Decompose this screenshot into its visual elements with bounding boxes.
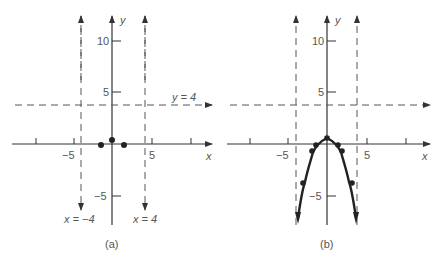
data-point bbox=[339, 148, 345, 154]
data-point bbox=[300, 180, 306, 186]
x-axis-label: x bbox=[421, 150, 428, 162]
data-point bbox=[324, 135, 330, 141]
y-axis-label: y bbox=[119, 14, 127, 26]
horizontal-asymptote-label: y = 4 bbox=[171, 91, 196, 103]
y-tick-10: 10 bbox=[312, 35, 324, 47]
panel-a: y x 10 5 −5 −5 5 y = 4 x = −4 x = 4 (a) bbox=[12, 14, 212, 250]
y-tick-10: 10 bbox=[97, 35, 109, 47]
y-tick-5: 5 bbox=[318, 86, 324, 98]
data-point bbox=[121, 142, 127, 148]
data-point bbox=[109, 137, 115, 143]
x-tick-neg5: −5 bbox=[276, 149, 289, 161]
x-tick-5: 5 bbox=[364, 149, 370, 161]
panel-caption: (a) bbox=[105, 238, 118, 250]
vertical-asymptote-right-label: x = 4 bbox=[132, 213, 157, 225]
y-tick-5: 5 bbox=[103, 86, 109, 98]
y-axis-label: y bbox=[334, 14, 342, 26]
x-axis-label: x bbox=[205, 150, 212, 162]
data-point bbox=[313, 142, 319, 148]
vertical-asymptote-left-label: x = −4 bbox=[63, 213, 95, 225]
panel-b: y x 10 5 −5 −5 5 (b) bbox=[227, 14, 430, 250]
data-point bbox=[309, 148, 315, 154]
data-point bbox=[349, 180, 355, 186]
panel-caption: (b) bbox=[320, 238, 333, 250]
x-tick-neg5: −5 bbox=[62, 149, 75, 161]
data-point bbox=[98, 142, 104, 148]
y-tick-neg5: −5 bbox=[309, 190, 322, 202]
figure-canvas: y x 10 5 −5 −5 5 y = 4 x = −4 x = 4 (a) bbox=[0, 0, 440, 261]
data-point bbox=[335, 142, 341, 148]
y-tick-neg5: −5 bbox=[94, 190, 107, 202]
x-tick-5: 5 bbox=[149, 149, 155, 161]
